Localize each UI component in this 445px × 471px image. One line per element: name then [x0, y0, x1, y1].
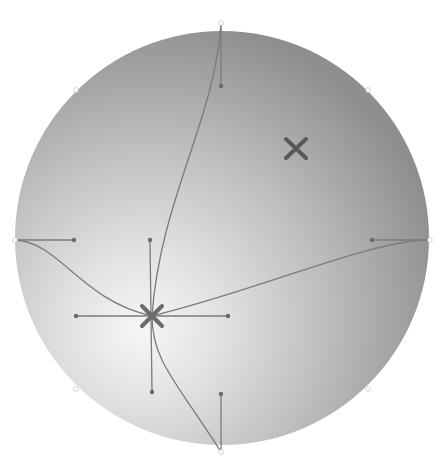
gradient-circle[interactable]: [15, 31, 429, 445]
gradient-mesh-artwork[interactable]: [0, 0, 445, 471]
canvas[interactable]: [0, 0, 445, 471]
